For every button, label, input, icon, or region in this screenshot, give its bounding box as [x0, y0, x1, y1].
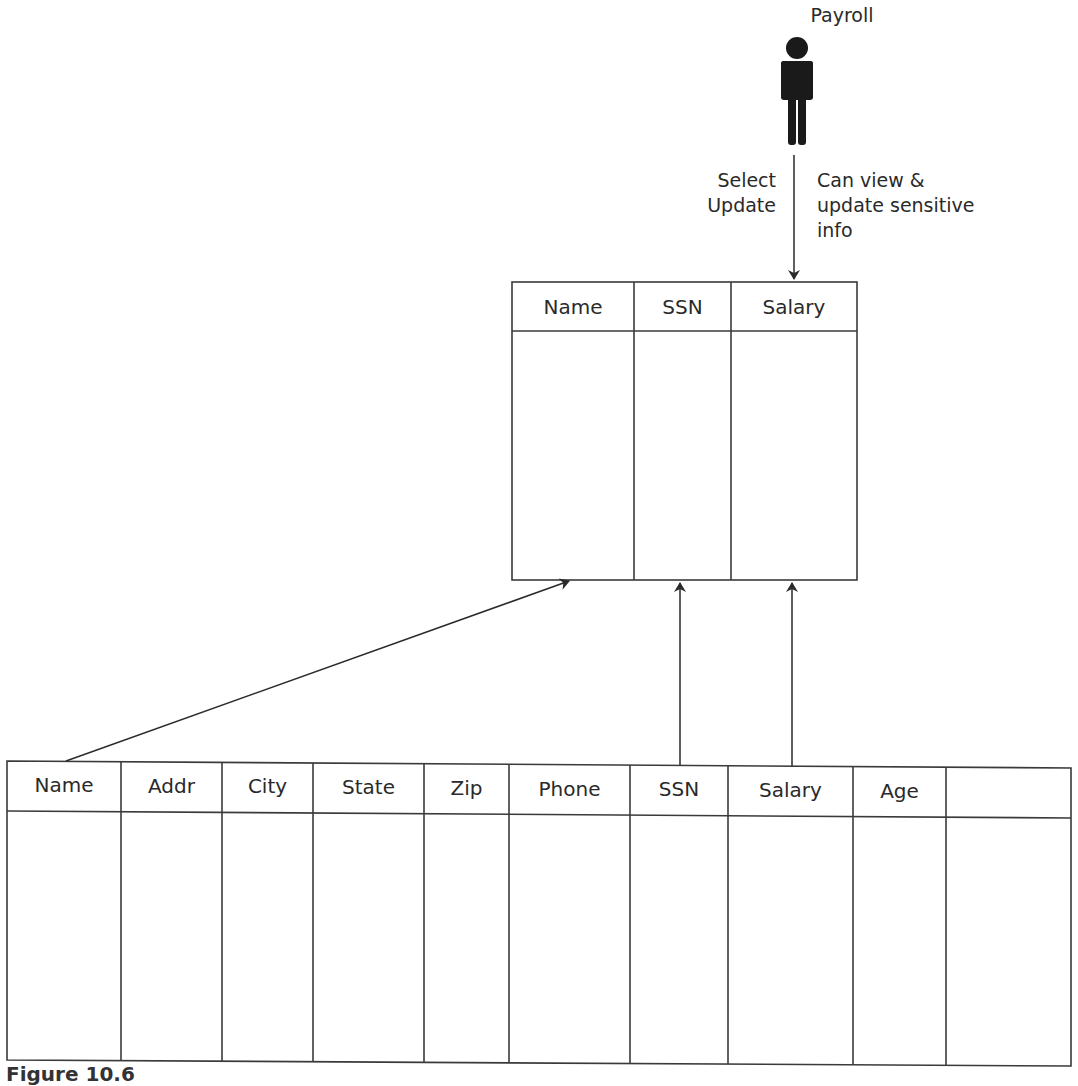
description-line-3: info: [817, 218, 1017, 243]
operation-update: Update: [700, 193, 776, 218]
figure-caption: Figure 10.6: [6, 1062, 135, 1086]
base-header-salary: Salary: [728, 766, 853, 814]
description-line-1: Can view &: [817, 168, 1017, 193]
base-header-state: State: [313, 763, 424, 811]
view-header-ssn: SSN: [634, 283, 731, 331]
name-mapping-arrow: [66, 581, 569, 761]
access-description: Can view & update sensitive info: [817, 168, 1017, 243]
base-header-age: Age: [853, 767, 946, 815]
view-header-name: Name: [512, 283, 634, 331]
description-line-2: update sensitive: [817, 193, 1017, 218]
base-header-ssn: SSN: [630, 765, 728, 813]
operations-label: Select Update: [700, 168, 776, 218]
base-header-empty: [946, 768, 1071, 816]
operation-select: Select: [700, 168, 776, 193]
person-icon: [781, 37, 813, 145]
base-header-name: Name: [7, 761, 121, 809]
actor-label: Payroll: [782, 4, 902, 26]
base-header-city: City: [222, 762, 313, 810]
view-header-salary: Salary: [731, 283, 857, 331]
base-header-phone: Phone: [509, 765, 630, 813]
base-header-zip: Zip: [424, 764, 509, 812]
base-header-addr: Addr: [121, 762, 222, 810]
